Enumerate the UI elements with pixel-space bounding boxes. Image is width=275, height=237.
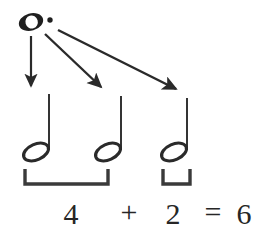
figure-canvas: 4 + 2 = 6: [0, 0, 275, 237]
augmentation-dot-icon: [47, 17, 52, 22]
music-notation-diagram: 4 + 2 = 6: [0, 0, 275, 237]
equals-operator: =: [205, 195, 222, 228]
figure-background: [0, 0, 275, 237]
addend-first: 4: [64, 197, 79, 230]
sum-result: 6: [237, 197, 252, 230]
addend-second: 2: [166, 197, 181, 230]
plus-operator: +: [121, 195, 138, 228]
